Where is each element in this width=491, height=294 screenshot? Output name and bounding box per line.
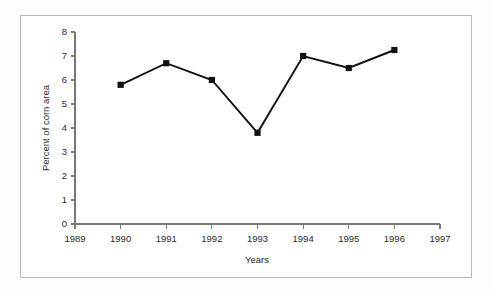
data-point-marker [391, 47, 397, 53]
data-point-marker [209, 77, 215, 83]
line-chart: 012345678 198919901991199219931994199519… [0, 0, 491, 294]
x-axis-tick-labels: 198919901991199219931994199519961997 [64, 233, 450, 244]
x-tick-label: 1996 [384, 233, 405, 244]
y-tick-label: 8 [62, 26, 67, 37]
x-tick-label: 1989 [64, 233, 85, 244]
y-tick-label: 5 [62, 98, 67, 109]
y-axis-title: Percent of corn area [40, 84, 51, 171]
axes-group [75, 32, 440, 224]
x-axis-ticks [75, 224, 440, 229]
y-tick-label: 4 [62, 122, 67, 133]
x-tick-label: 1993 [247, 233, 268, 244]
y-tick-label: 3 [62, 146, 67, 157]
data-point-marker [118, 82, 124, 88]
x-tick-label: 1994 [293, 233, 314, 244]
x-tick-label: 1991 [156, 233, 177, 244]
data-point-marker [300, 53, 306, 59]
y-tick-label: 7 [62, 50, 67, 61]
y-tick-label: 1 [62, 194, 67, 205]
x-tick-label: 1990 [110, 233, 131, 244]
series-line-percent-of-corn-area [121, 50, 395, 133]
y-tick-label: 0 [62, 218, 67, 229]
series-markers [118, 47, 398, 136]
y-tick-label: 2 [62, 170, 67, 181]
x-tick-label: 1995 [338, 233, 359, 244]
x-tick-label: 1997 [429, 233, 450, 244]
data-point-marker [163, 60, 169, 66]
data-point-marker [346, 65, 352, 71]
data-point-marker [254, 130, 260, 136]
y-tick-label: 6 [62, 74, 67, 85]
figure-root: 012345678 198919901991199219931994199519… [0, 0, 491, 294]
y-axis-tick-labels: 012345678 [62, 26, 67, 229]
x-axis-title: Years [245, 254, 269, 265]
x-tick-label: 1992 [201, 233, 222, 244]
